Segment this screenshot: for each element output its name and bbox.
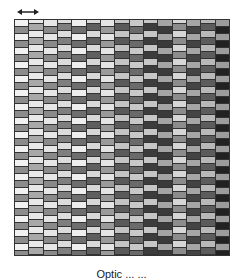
grid-cell [201,234,214,241]
grid-cell [44,34,57,41]
grid-cell [72,125,85,132]
grid-column [58,20,72,255]
grid-cell [72,230,85,237]
grid-cell [87,45,100,52]
grid-cell [15,90,28,97]
grid-cell [115,136,128,143]
grid-cell [201,164,214,171]
grid-cell [58,122,71,129]
grid-cell [87,101,100,108]
grid-cell [29,73,42,80]
grid-cell [58,234,71,241]
grid-cell [44,62,57,69]
grid-cell [173,129,186,136]
grid-cell [130,202,143,209]
grid-cell [72,216,85,223]
grid-cell [29,31,42,38]
grid-cell [130,230,143,237]
grid-cell [130,188,143,195]
grid-cell [15,195,28,202]
grid-cell [158,244,171,251]
grid-cell [87,157,100,164]
grid-column [101,20,115,255]
grid-cell [115,213,128,220]
grid-cell [187,55,200,62]
grid-cell [173,234,186,241]
grid-cell [158,188,171,195]
grid-cell [158,237,171,244]
grid-cell [144,248,157,255]
grid-cell [144,101,157,108]
grid-cell [187,132,200,139]
grid-cell [101,41,114,48]
grid-cell [158,174,171,181]
grid-cell [144,45,157,52]
grid-cell [216,167,229,174]
grid-cell [130,118,143,125]
grid-cell [44,55,57,62]
grid-cell [58,80,71,87]
grid-cell [144,115,157,122]
grid-cell [130,223,143,230]
grid-cell [15,48,28,55]
grid-cell [187,181,200,188]
grid-cell [72,188,85,195]
grid-cell [216,188,229,195]
grid-cell [115,248,128,255]
grid-cell [187,83,200,90]
grid-cell [216,90,229,97]
grid-cell [29,94,42,101]
grid-cell [72,153,85,160]
grid-cell [15,34,28,41]
grid-cell [44,153,57,160]
grid-cell [44,181,57,188]
grid-cell [115,255,128,256]
grid-cell [130,132,143,139]
grid-cell [144,150,157,157]
grid-cell [201,213,214,220]
grid-cell [29,171,42,178]
grid-cell [216,27,229,34]
grid-cell [72,160,85,167]
grid-cell [44,160,57,167]
grid-cell [72,132,85,139]
grid-cell [87,150,100,157]
grid-cell [115,234,128,241]
grid-cell [130,195,143,202]
grid-cell [101,216,114,223]
grid-cell [115,101,128,108]
grid-cell [173,115,186,122]
grid-cell [87,234,100,241]
grid-cell [201,59,214,66]
grid-cell [115,227,128,234]
grid-cell [58,157,71,164]
grid-cell [201,255,214,256]
grid-cell [144,171,157,178]
grid-cell [58,115,71,122]
grid-cell [187,111,200,118]
grid-cell [144,94,157,101]
grid-cell [158,104,171,111]
grid-cell [115,115,128,122]
grid-cell [158,90,171,97]
grid-cell [101,174,114,181]
grid-cell [101,125,114,132]
grid-cell [87,178,100,185]
grid-cell [158,209,171,216]
grid-cell [15,223,28,230]
grid-cell [87,122,100,129]
grid-cell [216,237,229,244]
grid-cell [173,73,186,80]
grid-cell [15,62,28,69]
grid-cell [72,209,85,216]
grid-cell [130,237,143,244]
grid-cell [15,167,28,174]
grid-cell [44,118,57,125]
grid-cell [115,31,128,38]
grid-cell [58,52,71,59]
grid-cell [173,24,186,31]
grid-cell [158,48,171,55]
grid-cell [144,220,157,227]
grid-cell [87,87,100,94]
grid-cell [158,111,171,118]
